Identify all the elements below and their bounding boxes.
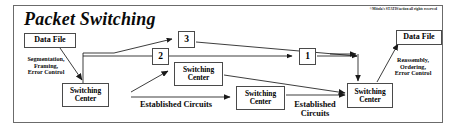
segmentation-annotation: Segmentation, Framing, Error Control [15,56,77,76]
data-file-right-box: Data File [396,30,442,45]
switching-center-lower-box: Switching Center [236,86,285,110]
switching-center-middle-box: Switching Center [174,62,223,86]
packet-1-box: 1 [299,48,316,65]
established-circuits-right-label: Established Circuits [286,100,344,118]
packet-3-box: 3 [178,31,195,48]
packet-2-box: 2 [152,48,169,65]
switching-center-left-box: Switching Center [62,83,109,107]
packet-switching-diagram: Packet Switching ©Mitola's STATIS/action… [0,0,457,135]
switching-center-right-box: Switching Center [347,83,393,108]
page-title: Packet Switching [24,10,156,29]
established-circuits-left-label: Established Circuits [124,100,228,109]
data-file-left-box: Data File [24,33,76,48]
copyright-notice: ©Mitola's STATIS/action all rights reser… [370,8,437,12]
reassembly-annotation: Reassembly, Ordering, Error Control [382,57,444,77]
